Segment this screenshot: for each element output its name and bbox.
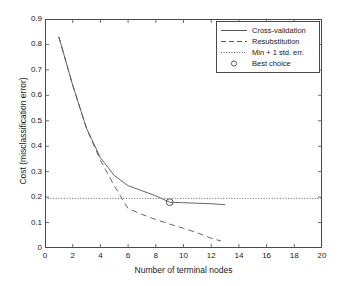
legend-item-label: Resubstitution bbox=[249, 36, 300, 47]
legend-item[interactable]: Resubstitution bbox=[219, 36, 317, 47]
y-axis-title: Cost (misclassification error) bbox=[18, 41, 28, 221]
y-tick-label: 0.7 bbox=[31, 66, 42, 74]
x-tick-label: 2 bbox=[70, 252, 74, 260]
y-tick-label: 0.9 bbox=[31, 15, 42, 23]
x-tick-label: 20 bbox=[318, 252, 327, 260]
y-tick-label: 0.2 bbox=[31, 193, 42, 201]
x-tick-label: 14 bbox=[234, 252, 243, 260]
x-tick-label: 16 bbox=[262, 252, 271, 260]
x-tick-label: 4 bbox=[98, 252, 102, 260]
chart-figure: 00.10.20.30.40.50.60.70.80.9 Cost (miscl… bbox=[0, 0, 346, 286]
y-tick-label: 0.1 bbox=[31, 219, 42, 227]
dotted-line-key bbox=[219, 47, 249, 58]
x-tick-label: 8 bbox=[154, 252, 158, 260]
x-tick-label: 12 bbox=[207, 252, 216, 260]
y-tick-label: 0.5 bbox=[31, 117, 42, 125]
x-tick-label: 0 bbox=[43, 252, 47, 260]
y-tick-label: 0.3 bbox=[31, 168, 42, 176]
y-tick-label: 0.4 bbox=[31, 142, 42, 150]
x-tick-label: 18 bbox=[290, 252, 299, 260]
legend-item[interactable]: Min + 1 std. err. bbox=[219, 47, 317, 58]
x-tick-label: 6 bbox=[126, 252, 130, 260]
legend-item[interactable]: Cross-validation bbox=[219, 25, 317, 36]
y-tick-label: 0.6 bbox=[31, 91, 42, 99]
solid-line-key bbox=[219, 25, 249, 36]
chart-legend[interactable]: Cross-validation Resubstitution Min + 1 … bbox=[216, 21, 320, 73]
dashed-line-key bbox=[219, 36, 249, 47]
legend-item-label: Cross-validation bbox=[249, 25, 306, 36]
x-axis-title: Number of terminal nodes bbox=[45, 265, 322, 275]
legend-item[interactable]: Best choice bbox=[219, 58, 317, 69]
y-tick-label: 0 bbox=[38, 244, 42, 252]
circle-marker-key bbox=[219, 58, 249, 69]
x-tick-label: 10 bbox=[179, 252, 188, 260]
legend-item-label: Best choice bbox=[249, 58, 291, 69]
y-tick-label: 0.8 bbox=[31, 40, 42, 48]
x-axis-tick-labels: 02468101214161820 bbox=[0, 252, 346, 264]
legend-item-label: Min + 1 std. err. bbox=[249, 47, 304, 58]
